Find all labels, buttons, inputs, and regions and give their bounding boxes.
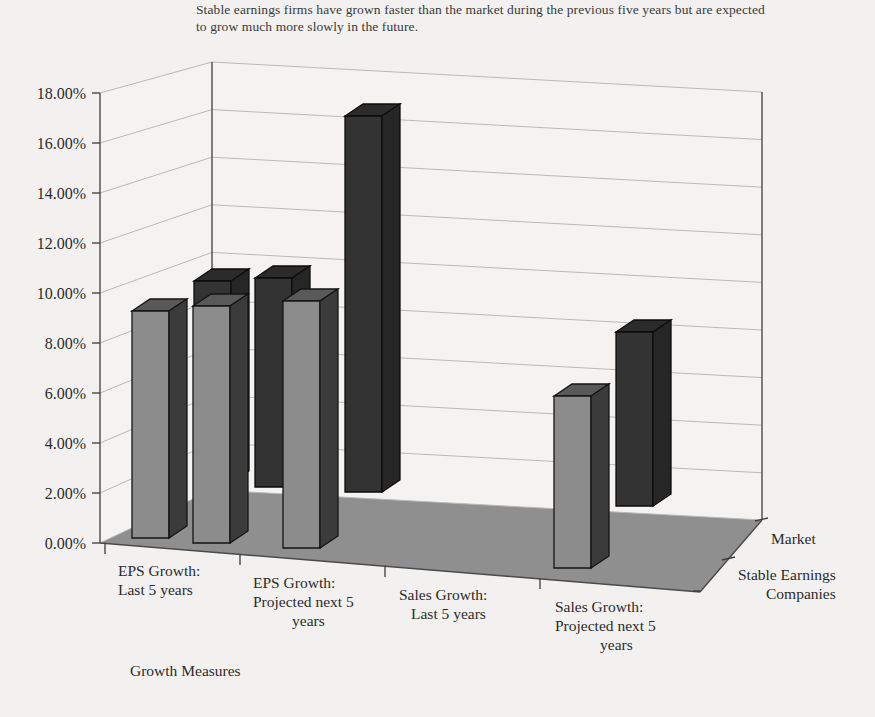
category-label-sales-projected: Sales Growth: Projected next 5 years xyxy=(555,598,656,653)
chart-container: Stable earnings firms have grown faster … xyxy=(0,0,875,717)
y-tick-label: 18.00% xyxy=(37,85,86,102)
svg-text:EPS Growth:: EPS Growth: xyxy=(118,562,200,579)
svg-text:Projected next 5: Projected next 5 xyxy=(555,617,656,634)
chart-plot: 18.00% 16.00% 14.00% 12.00% 10.00% 8.00%… xyxy=(0,0,875,717)
bar-market-sales-projected xyxy=(616,320,671,506)
series-label-market: Market xyxy=(771,530,816,547)
bar-stable-eps-projected xyxy=(193,294,248,543)
series-legend-labels: Market Stable Earnings Companies xyxy=(738,530,836,602)
svg-text:Sales Growth:: Sales Growth: xyxy=(399,586,487,603)
svg-text:years: years xyxy=(600,636,633,653)
y-tick-label: 4.00% xyxy=(45,435,86,452)
bar-market-sales-last5 xyxy=(345,104,400,492)
y-tick-label: 6.00% xyxy=(45,385,86,402)
y-tick-label: 12.00% xyxy=(37,235,86,252)
svg-text:years: years xyxy=(292,612,325,629)
svg-text:EPS Growth:: EPS Growth: xyxy=(253,574,335,591)
category-label-eps-last5: EPS Growth: Last 5 years xyxy=(118,562,200,598)
bar-stable-sales-last5 xyxy=(283,289,338,548)
y-tick-label: 8.00% xyxy=(45,335,86,352)
category-label-sales-last5: Sales Growth: Last 5 years xyxy=(399,586,487,622)
series-label-stable-line1: Stable Earnings xyxy=(738,566,836,583)
svg-text:Projected next 5: Projected next 5 xyxy=(253,593,354,610)
bar-stable-sales-projected xyxy=(554,384,609,568)
y-axis-ticks xyxy=(92,93,100,543)
series-label-stable-line2: Companies xyxy=(766,585,836,602)
y-tick-label: 16.00% xyxy=(37,135,86,152)
y-tick-label: 2.00% xyxy=(45,485,86,502)
y-axis-tick-labels: 18.00% 16.00% 14.00% 12.00% 10.00% 8.00%… xyxy=(37,85,86,552)
y-tick-label: 0.00% xyxy=(45,535,86,552)
svg-text:Sales Growth:: Sales Growth: xyxy=(555,598,643,615)
svg-text:Last 5 years: Last 5 years xyxy=(411,605,486,622)
y-tick-label: 10.00% xyxy=(37,285,86,302)
x-axis-title: Growth Measures xyxy=(130,662,241,679)
y-tick-label: 14.00% xyxy=(37,185,86,202)
category-label-eps-projected: EPS Growth: Projected next 5 years xyxy=(253,574,354,629)
bar-stable-eps-last5 xyxy=(132,299,187,538)
svg-text:Last 5 years: Last 5 years xyxy=(118,581,193,598)
